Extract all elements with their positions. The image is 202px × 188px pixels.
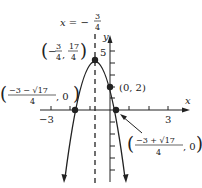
svg-text:4: 4 bbox=[56, 53, 61, 62]
graph-canvas: x = − 3 4 y x 5 −3 3 (0, 2) ( − 3 4 , 17… bbox=[0, 0, 202, 188]
svg-text:(: ( bbox=[0, 83, 7, 104]
y-tick-5-label: 5 bbox=[100, 47, 106, 58]
left-arrow-icon bbox=[62, 174, 68, 183]
eq-den: 4 bbox=[95, 23, 100, 32]
svg-text:, 0: , 0 bbox=[56, 91, 69, 102]
svg-text:): ) bbox=[196, 133, 202, 154]
vertex-label: ( − 3 4 , 17 4 ) bbox=[41, 40, 87, 62]
svg-text:4: 4 bbox=[71, 53, 76, 62]
x-tick-neg3-label: −3 bbox=[39, 114, 54, 125]
x-axis-label: x bbox=[185, 95, 191, 106]
svg-text:4: 4 bbox=[30, 97, 35, 106]
svg-text:3: 3 bbox=[56, 42, 61, 51]
svg-text:,: , bbox=[62, 49, 65, 60]
x-tick-3-label: 3 bbox=[165, 114, 171, 125]
y-intercept-label: (0, 2) bbox=[119, 82, 146, 93]
svg-text:): ) bbox=[80, 40, 87, 61]
svg-text:−3 + √17: −3 + √17 bbox=[136, 136, 175, 145]
svg-text:(: ( bbox=[127, 133, 134, 154]
y-axis-label: y bbox=[102, 31, 109, 42]
x-axis-arrow-icon bbox=[182, 108, 190, 113]
left-root-point bbox=[72, 107, 78, 113]
svg-text:x = −: x = − bbox=[60, 17, 89, 28]
left-root-label: ( −3 − √17 4 , 0 ) bbox=[0, 83, 80, 106]
svg-text:4: 4 bbox=[156, 148, 161, 157]
right-root-point bbox=[113, 107, 119, 113]
svg-text:, 0: , 0 bbox=[183, 141, 196, 152]
vertex-point bbox=[92, 57, 98, 63]
parabola-diagram: x = − 3 4 y x 5 −3 3 (0, 2) ( − 3 4 , 17… bbox=[0, 0, 202, 188]
svg-text:17: 17 bbox=[69, 42, 79, 51]
svg-text:): ) bbox=[73, 83, 80, 104]
right-arrow-icon bbox=[123, 174, 129, 183]
svg-text:−3 − √17: −3 − √17 bbox=[9, 86, 48, 95]
svg-text:(: ( bbox=[41, 40, 48, 61]
eq-num: 3 bbox=[95, 12, 100, 21]
y-intercept-point bbox=[107, 84, 113, 90]
equation-label: x = − 3 4 bbox=[60, 12, 101, 32]
right-root-label: ( −3 + √17 4 , 0 ) bbox=[127, 133, 202, 157]
